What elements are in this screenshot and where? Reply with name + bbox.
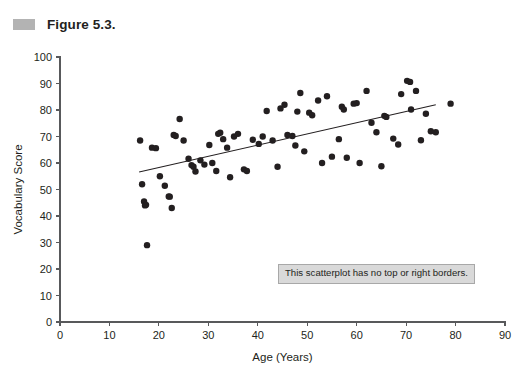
data-point <box>418 137 424 143</box>
data-point <box>315 97 321 103</box>
data-point <box>319 160 325 166</box>
data-point <box>137 137 143 143</box>
data-point <box>173 133 179 139</box>
data-point <box>378 163 384 169</box>
data-point <box>263 108 269 114</box>
x-tick-label: 50 <box>301 329 313 341</box>
data-points-group <box>137 78 454 249</box>
data-point <box>368 120 374 126</box>
data-point <box>167 193 173 199</box>
data-point <box>407 79 413 85</box>
y-tick-label: 90 <box>40 78 52 90</box>
y-tick-label: 10 <box>40 290 52 302</box>
data-point <box>250 136 256 142</box>
data-point <box>153 145 159 151</box>
data-point <box>353 100 359 106</box>
x-tick-group: 0102030405060708090 <box>57 322 511 341</box>
data-point <box>206 142 212 148</box>
data-point <box>395 141 401 147</box>
y-tick-label: 30 <box>40 237 52 249</box>
y-axis-title: Vocabulary Score <box>12 144 24 234</box>
data-point <box>144 242 150 248</box>
data-point <box>413 88 419 94</box>
data-point <box>162 183 168 189</box>
data-point <box>324 93 330 99</box>
data-point <box>398 91 404 97</box>
x-tick-label: 10 <box>103 329 115 341</box>
x-tick-label: 60 <box>351 329 363 341</box>
y-tick-group: 0102030405060708090100 <box>34 51 60 328</box>
data-point <box>297 90 303 96</box>
scatterplot-chart: 0102030405060708090100 01020304050607080… <box>0 0 532 385</box>
data-point <box>363 88 369 94</box>
data-point <box>423 111 429 117</box>
data-point <box>143 202 149 208</box>
plot-canvas: 0102030405060708090100 01020304050607080… <box>0 0 532 385</box>
data-point <box>274 164 280 170</box>
data-point <box>180 137 186 143</box>
y-tick-label: 20 <box>40 263 52 275</box>
data-point <box>227 174 233 180</box>
data-point <box>157 173 163 179</box>
data-point <box>329 153 335 159</box>
data-point <box>336 136 342 142</box>
data-point <box>244 168 250 174</box>
x-tick-label: 0 <box>57 329 63 341</box>
data-point <box>209 160 215 166</box>
data-point <box>341 106 347 112</box>
data-point <box>192 168 198 174</box>
x-tick-label: 80 <box>449 329 461 341</box>
data-point <box>281 102 287 108</box>
data-point <box>390 135 396 141</box>
y-tick-label: 60 <box>40 157 52 169</box>
data-point <box>176 116 182 122</box>
annotation-callout: This scatterplot has no top or right bor… <box>278 264 475 284</box>
data-point <box>309 112 315 118</box>
data-point <box>220 136 226 142</box>
y-tick-label: 100 <box>34 51 52 63</box>
x-tick-label: 90 <box>499 329 511 341</box>
data-point <box>169 205 175 211</box>
y-tick-label: 40 <box>40 210 52 222</box>
data-point <box>433 129 439 135</box>
data-point <box>292 142 298 148</box>
data-point <box>213 168 219 174</box>
y-tick-label: 70 <box>40 131 52 143</box>
data-point <box>224 144 230 150</box>
data-point <box>356 160 362 166</box>
data-point <box>260 133 266 139</box>
data-point <box>139 181 145 187</box>
y-tick-label: 50 <box>40 184 52 196</box>
x-tick-label: 30 <box>202 329 214 341</box>
data-point <box>344 155 350 161</box>
data-point <box>235 131 241 137</box>
data-point <box>301 148 307 154</box>
x-tick-label: 40 <box>252 329 264 341</box>
y-tick-label: 0 <box>46 316 52 328</box>
y-tick-label: 80 <box>40 104 52 116</box>
data-point <box>447 100 453 106</box>
x-tick-label: 20 <box>153 329 165 341</box>
x-axis-title: Age (Years) <box>252 351 312 363</box>
data-point <box>217 130 223 136</box>
data-point <box>373 129 379 135</box>
x-tick-label: 70 <box>400 329 412 341</box>
data-point <box>294 108 300 114</box>
data-point <box>201 161 207 167</box>
